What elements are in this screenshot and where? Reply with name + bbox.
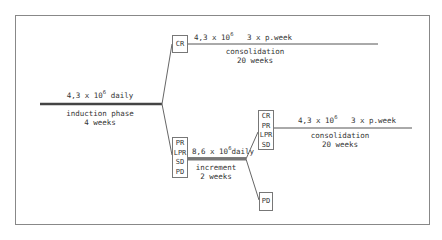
top-branch-phase-label: consolidation 20 weeks <box>205 47 305 65</box>
box-item: CR <box>259 112 273 122</box>
dose-exponent: 6 <box>230 31 233 37</box>
dose-text: 4,3 x 10 <box>298 116 334 125</box>
dose-text: 4,3 x 10 <box>194 33 230 42</box>
response-box-cr-pr-lpr-sd: CR PR LPR SD <box>258 110 274 150</box>
box-item: LPR <box>259 131 273 141</box>
phase-duration: 4 weeks <box>50 118 150 127</box>
dose-text: 4,3 x 10 <box>67 91 103 100</box>
phase-name: consolidation <box>205 47 305 56</box>
dose-frequency: daily <box>231 147 254 156</box>
response-box-pr-lpr-sd-pd: PR LPR SD PD <box>172 137 188 178</box>
box-item: PD <box>262 197 270 205</box>
phase-name: consolidation <box>290 131 390 140</box>
phase-duration: 20 weeks <box>205 56 305 65</box>
phase-duration: 20 weeks <box>290 140 390 149</box>
induction-phase-label: induction phase 4 weeks <box>50 109 150 127</box>
dose-exponent: 6 <box>103 89 106 95</box>
response-box-pd: PD <box>259 192 273 211</box>
phase-name: increment <box>188 163 244 172</box>
box-item: SD <box>259 141 273 151</box>
box-item: PD <box>173 168 187 178</box>
box-item: SD <box>173 158 187 168</box>
increment-dose: 8,6 x 106daily <box>192 147 254 156</box>
phase-name: induction phase <box>50 109 150 118</box>
top-branch-dose: 4,3 x 106 3 x p.week <box>194 33 292 42</box>
dose-text: 8,6 x 10 <box>192 147 228 156</box>
box-item: PR <box>173 139 187 149</box>
phase-duration: 2 weeks <box>188 172 244 181</box>
second-consolidation-phase-label: consolidation 20 weeks <box>290 131 390 149</box>
increment-phase-label: increment 2 weeks <box>188 163 244 181</box>
box-item: PR <box>259 122 273 132</box>
dose-frequency: 3 x p.week <box>247 33 292 42</box>
dose-frequency: daily <box>111 91 134 100</box>
box-item: LPR <box>173 149 187 159</box>
second-consolidation-dose: 4,3 x 106 3 x p.week <box>298 116 396 125</box>
dose-frequency: 3 x p.week <box>351 116 396 125</box>
response-box-cr: CR <box>172 35 188 53</box>
induction-dose: 4,3 x 106 daily <box>50 91 150 100</box>
box-item: CR <box>176 40 184 48</box>
dose-exponent: 6 <box>334 114 337 120</box>
